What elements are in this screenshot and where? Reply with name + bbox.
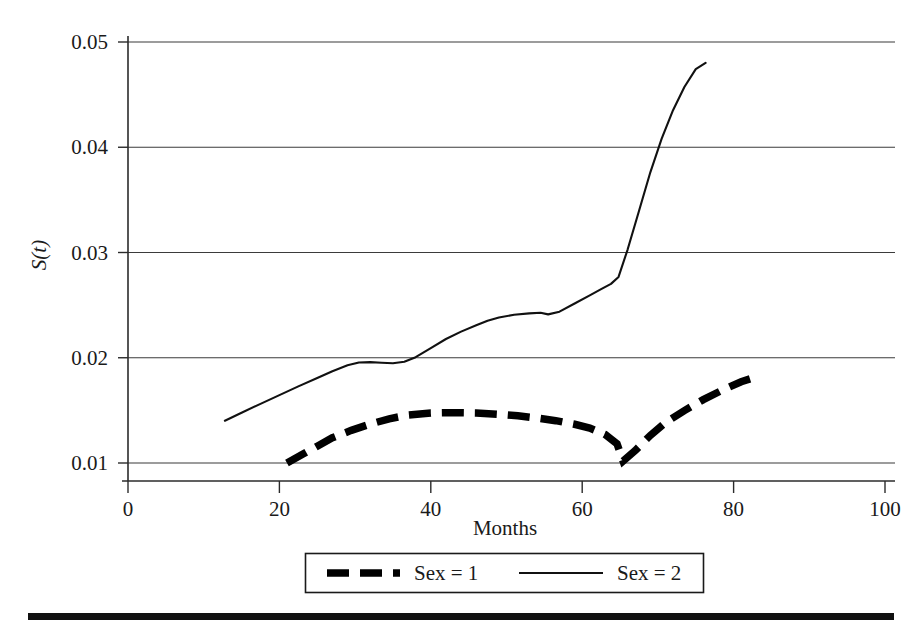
figure-container: 0.010.020.030.040.05 020406080100 S(t) M… bbox=[0, 0, 923, 638]
y-axis-title: S(t) bbox=[27, 240, 51, 270]
y-tick-label-3: 0.04 bbox=[71, 135, 108, 159]
x-axis-title: Months bbox=[473, 516, 537, 540]
legend-label-sex-2: Sex = 2 bbox=[617, 561, 681, 585]
series-line-sex-1 bbox=[287, 376, 759, 463]
x-tick-marks-group bbox=[128, 481, 885, 493]
y-tick-label-2: 0.03 bbox=[71, 241, 108, 265]
y-tick-label-1: 0.02 bbox=[71, 346, 108, 370]
y-tick-labels-group: 0.010.020.030.040.05 bbox=[71, 30, 108, 475]
legend-label-sex-1: Sex = 1 bbox=[414, 561, 478, 585]
x-tick-label-3: 60 bbox=[572, 497, 593, 521]
gridlines-group bbox=[128, 42, 895, 463]
series-line-sex-2 bbox=[225, 63, 706, 421]
y-axis-title-paren: ) bbox=[27, 240, 51, 248]
x-tick-label-1: 20 bbox=[269, 497, 290, 521]
y-tick-marks-group bbox=[118, 42, 128, 463]
y-tick-label-4: 0.05 bbox=[71, 30, 108, 54]
x-tick-label-5: 100 bbox=[869, 497, 901, 521]
y-tick-label-0: 0.01 bbox=[71, 451, 108, 475]
svg-text:S(t): S(t) bbox=[27, 240, 51, 270]
survival-curve-chart: 0.010.020.030.040.05 020406080100 S(t) M… bbox=[0, 0, 923, 638]
page-bottom-rule bbox=[28, 613, 894, 620]
data-series-group bbox=[225, 63, 759, 463]
x-tick-label-2: 40 bbox=[420, 497, 441, 521]
x-tick-label-0: 0 bbox=[123, 497, 134, 521]
x-tick-label-4: 80 bbox=[723, 497, 744, 521]
legend: Sex = 1 Sex = 2 bbox=[306, 554, 704, 593]
